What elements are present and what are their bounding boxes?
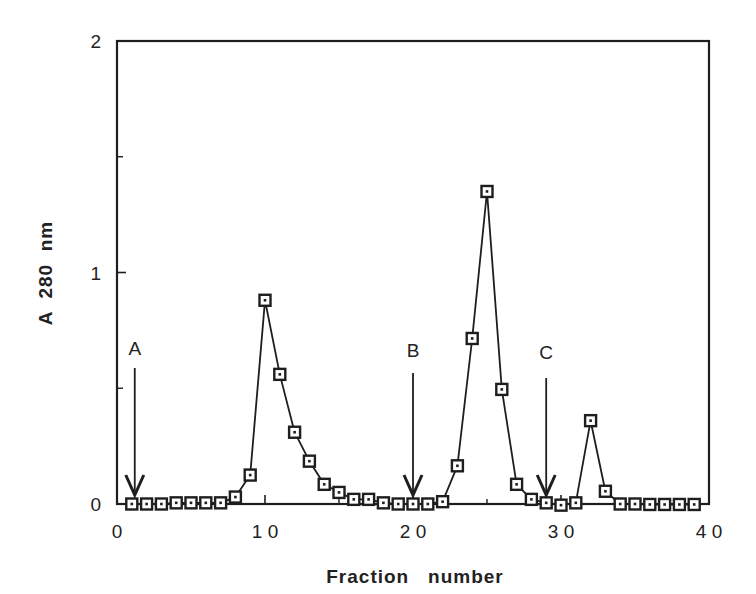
- axis-ticks: [117, 157, 635, 504]
- y-axis-title: A 280 nm: [35, 221, 56, 325]
- data-point-center: [427, 503, 430, 506]
- x-axis-title: Fraction number: [326, 566, 503, 587]
- data-point-center: [441, 500, 444, 503]
- data-point-center: [382, 502, 385, 505]
- axis-tick-labels: 01 02 03 04 0012: [90, 31, 722, 542]
- data-point-center: [131, 503, 134, 506]
- data-point-center: [175, 502, 178, 505]
- x-tick-label: 2 0: [400, 521, 426, 542]
- data-point-center: [323, 483, 326, 486]
- data-point-center: [308, 460, 311, 463]
- annotation-label-c: C: [539, 342, 553, 363]
- y-tick-label: 2: [90, 31, 101, 52]
- data-point-center: [338, 491, 341, 494]
- x-tick-label: 4 0: [696, 521, 722, 542]
- data-point-center: [456, 465, 459, 468]
- x-tick-label: 0: [112, 521, 123, 542]
- data-point-center: [234, 496, 237, 499]
- data-point-center: [293, 431, 296, 434]
- data-point-center: [575, 502, 578, 505]
- data-point-center: [560, 504, 563, 507]
- data-point-center: [486, 190, 489, 193]
- data-point-center: [545, 502, 548, 505]
- data-point-center: [634, 503, 637, 506]
- data-point-center: [397, 503, 400, 506]
- data-point-center: [501, 388, 504, 391]
- data-point-center: [412, 503, 415, 506]
- data-point-center: [219, 502, 222, 505]
- annotation-label-a: A: [128, 338, 141, 359]
- data-point-center: [205, 502, 208, 505]
- data-point-center: [604, 490, 607, 493]
- x-tick-label: 3 0: [548, 521, 574, 542]
- data-point-center: [649, 503, 652, 506]
- data-point-center: [249, 474, 252, 477]
- x-tick-label: 1 0: [252, 521, 278, 542]
- data-point-center: [515, 483, 518, 486]
- data-point-center: [678, 503, 681, 506]
- data-point-center: [160, 503, 163, 506]
- annotation-label-b: B: [407, 340, 420, 361]
- data-point-center: [693, 503, 696, 506]
- data-point-center: [279, 373, 282, 376]
- y-tick-label: 0: [90, 494, 101, 515]
- data-point-center: [367, 498, 370, 501]
- data-point-center: [190, 502, 193, 505]
- data-point-center: [663, 503, 666, 506]
- data-point-center: [145, 503, 148, 506]
- data-point-center: [264, 299, 267, 302]
- y-tick-label: 1: [90, 263, 101, 284]
- data-point-center: [471, 337, 474, 340]
- data-point-center: [530, 498, 533, 501]
- chart: 01 02 03 04 0012 ABC Fraction number A 2…: [0, 0, 756, 594]
- data-point-center: [619, 503, 622, 506]
- data-point-center: [589, 419, 592, 422]
- data-point-center: [353, 498, 356, 501]
- arrow-annotations: ABC: [126, 338, 555, 495]
